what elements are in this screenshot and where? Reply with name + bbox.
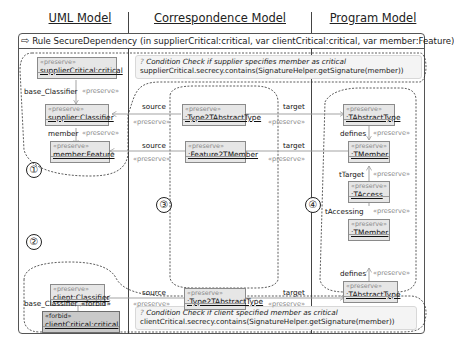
edge-label-source: source [142,102,166,111]
stereotype: «preserve» [346,106,392,113]
node-name: :TMember [351,228,387,237]
node-client-critical[interactable]: «forbid» clientCritical:critical [42,311,120,333]
edge-label-source: source [142,141,166,150]
edge-label-defines: defines [340,269,366,278]
edge-stereotype-forbid: «forbid» [81,299,111,308]
edge-label-source: source [142,288,166,297]
edge-label-target: target [283,141,305,150]
edge-stereotype: «preserve» [82,87,119,95]
question-mark-icon: ? [140,308,144,317]
node-name: :Type2TAbstractType [185,113,243,122]
region-marker-3: ③ [156,197,172,213]
edge-stereotype: «preserve» [268,300,305,308]
region-marker-2: ② [26,234,42,250]
edge-label-defines: defines [340,129,366,138]
stereotype: «preserve» [346,283,395,290]
edge-label-ttarget: tTarget [339,170,364,179]
stereotype: «preserve» [188,143,243,150]
node-tmember-1[interactable]: «preserve» :TMember [348,141,390,163]
node-tabstracttype-1[interactable]: «preserve» :TAbstractType [343,104,395,126]
edge-stereotype: «preserve» [373,207,410,215]
node-tmember-2[interactable]: «preserve» :TMember [348,219,390,241]
node-name: :TAccess [351,190,387,199]
question-mark-icon: ? [140,57,144,66]
node-corr-type2tabstracttype-2[interactable]: «preserve» :Type2TAbstractType [184,288,246,310]
node-tabstracttype-2[interactable]: «preserve» :TAbstractType [343,281,398,303]
stereotype: «preserve» [187,290,243,297]
node-corr-feature2tmember[interactable]: «preserve» :Feature2TMember [185,141,246,163]
stereotype: «preserve» [53,286,102,293]
stereotype: «preserve» [351,221,387,228]
edge-stereotype: «preserve» [373,170,410,178]
node-corr-type2tabstracttype-1[interactable]: «preserve» :Type2TAbstractType [182,104,246,126]
edge-label-taccessing: tAccessing [325,207,364,216]
edge-label-base-classifier: base_Classifier [24,87,78,96]
edge-stereotype: «preserve» [133,118,170,126]
stereotype: «preserve» [53,143,107,150]
node-supplier-classifier[interactable]: «preserve» supplier:Classifier [45,104,109,126]
condition-client: ? Condition Check if client specified me… [135,306,417,330]
stereotype: «preserve» [40,59,114,66]
edge-stereotype: «preserve» [133,300,170,308]
condition-title: Condition Check if supplier specifies me… [146,57,346,66]
edge-stereotype: «preserve» [82,129,119,137]
stereotype: «preserve» [185,106,243,113]
edge-stereotype: «preserve» [133,155,170,163]
node-name: supplier:Classifier [48,113,106,122]
condition-expression: supplierCritical.secrecy.contains(Signat… [140,66,417,75]
edge-stereotype: «preserve» [373,129,410,137]
edge-label-target: target [283,102,305,111]
edge-stereotype: «preserve» [268,155,305,163]
stereotype: «preserve» [351,143,387,150]
edge-stereotype: «preserve» [268,118,305,126]
edge-label-base-classifier-2: base_Classifier [24,299,78,308]
condition-supplier: ? Condition Check if supplier specifies … [135,55,422,79]
stereotype: «preserve» [351,183,387,190]
node-name: :TAbstractType [346,113,392,122]
node-name: clientCritical:critical [45,320,117,329]
stereotype: «forbid» [45,313,117,320]
node-member-feature[interactable]: «preserve» member:Feature [50,141,110,163]
node-name: :TMember [351,150,387,159]
node-name: :Type2TAbstractType [187,297,243,306]
region-marker-1: ① [26,162,42,178]
edge-label-target: target [283,288,305,297]
node-name: supplierCritical:critical [40,66,114,75]
node-supplier-critical[interactable]: «preserve» supplierCritical:critical [37,57,117,79]
region-marker-4: ④ [305,197,321,213]
node-taccess[interactable]: «preserve» :TAccess [348,181,390,203]
node-name: :TAbstractType [346,290,395,299]
stereotype: «preserve» [48,106,106,113]
edge-stereotype: «preserve» [373,269,410,277]
edge-label-member: member [48,129,78,138]
node-name: member:Feature [53,150,107,159]
condition-expression: clientCritical.secrecy.contains(Signatur… [140,317,412,326]
node-name: :Feature2TMember [188,150,243,159]
